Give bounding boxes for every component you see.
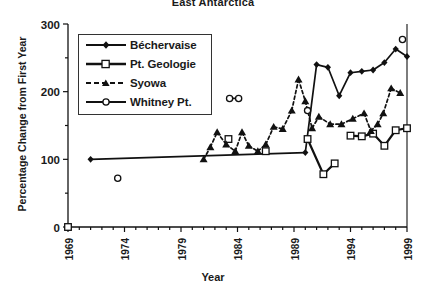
data-point <box>262 148 269 155</box>
series-segment <box>339 73 350 96</box>
data-point <box>379 109 387 116</box>
data-point <box>320 171 327 178</box>
data-point <box>314 61 320 68</box>
data-point <box>396 89 404 96</box>
series-syowa <box>200 76 405 163</box>
data-point <box>381 143 388 150</box>
data-point <box>245 142 253 149</box>
chart-legend: Béchervaise Pt. Geologie Syowa <box>78 34 212 115</box>
data-point <box>325 64 331 71</box>
legend-label-syowa: Syowa <box>130 77 166 89</box>
x-tick-label: 1999 <box>403 238 414 261</box>
legend-swatch-whitney-pt <box>84 93 128 111</box>
series-segment <box>383 88 391 113</box>
data-point <box>88 156 94 163</box>
data-point <box>304 108 310 114</box>
y-tick-label: 0 <box>54 222 60 234</box>
plot-area: 01002003001969197419791984198919941999 <box>0 0 426 297</box>
data-point <box>360 109 368 116</box>
series-segment <box>328 67 339 95</box>
data-point <box>302 149 308 156</box>
chart-root: East Antarctica Percentage Change from F… <box>0 0 426 297</box>
data-point <box>65 224 72 231</box>
series-segment <box>292 79 299 110</box>
data-point <box>226 95 232 101</box>
data-point <box>374 120 382 127</box>
data-point <box>315 113 323 120</box>
legend-swatch-bechervaise <box>84 36 128 54</box>
data-point <box>301 97 309 104</box>
data-point <box>206 143 214 150</box>
y-tick-label: 100 <box>41 154 60 166</box>
x-tick-label: 1969 <box>64 238 75 261</box>
data-point <box>387 84 395 91</box>
legend-swatch-syowa <box>84 74 128 92</box>
data-point <box>347 132 354 139</box>
legend-item-syowa: Syowa <box>79 73 211 92</box>
legend-label-whitney-pt: Whitney Pt. <box>130 96 192 108</box>
x-tick-label: 1994 <box>346 238 357 261</box>
x-tick-label: 1989 <box>290 238 301 261</box>
series-segment <box>308 139 324 174</box>
data-point <box>304 136 311 143</box>
data-point <box>262 141 270 148</box>
x-tick-label: 1984 <box>233 238 244 261</box>
legend-item-pt-geologie: Pt. Geologie <box>79 54 211 73</box>
data-point <box>238 128 246 135</box>
y-tick-label: 200 <box>41 86 60 98</box>
y-tick-label: 300 <box>41 19 60 31</box>
data-point <box>236 95 242 101</box>
data-point <box>331 160 338 167</box>
data-point <box>404 125 411 132</box>
series-segment <box>91 153 306 160</box>
legend-label-pt-geologie: Pt. Geologie <box>130 58 196 70</box>
legend-swatch-pt-geologie <box>84 55 128 73</box>
legend-item-bechervaise: Béchervaise <box>79 35 211 54</box>
data-point <box>270 123 278 130</box>
legend-item-whitney-pt: Whitney Pt. <box>79 92 211 111</box>
data-point <box>254 147 262 154</box>
x-tick-label: 1979 <box>177 238 188 261</box>
legend-label-bechervaise: Béchervaise <box>130 39 197 51</box>
data-point <box>336 92 342 99</box>
data-point <box>399 36 405 42</box>
data-point <box>213 128 221 135</box>
data-point <box>359 68 365 75</box>
x-tick-label: 1974 <box>120 238 131 261</box>
data-point <box>347 69 353 76</box>
data-point <box>295 76 303 83</box>
series-segment <box>299 79 306 101</box>
data-point <box>359 133 366 140</box>
data-point <box>115 175 121 181</box>
data-point <box>288 107 296 114</box>
series-segment <box>384 49 395 63</box>
data-point <box>392 127 399 134</box>
